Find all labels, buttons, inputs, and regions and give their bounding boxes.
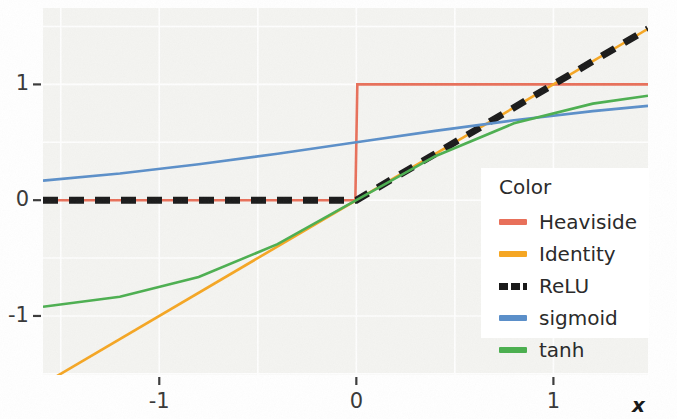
legend-item-label: ReLU [539,276,589,296]
y-tick-label: -1 [0,303,29,327]
legend-title: Color [499,175,551,199]
x-tick-label: 1 [533,389,573,413]
x-axis-title: x [632,393,645,417]
legend-item[interactable]: Identity [499,238,637,270]
activation-functions-chart: 1 0 -1 -1 0 1 x Color HeavisideIdentityR… [0,0,677,419]
legend-item[interactable]: sigmoid [499,302,637,334]
x-tick-label: -1 [139,389,179,413]
legend-swatch-sigmoid [499,315,527,321]
legend-swatch-tanh [499,347,527,353]
x-tick-label: 0 [336,389,376,413]
y-tick-label: 0 [0,187,29,211]
legend-item[interactable]: ReLU [499,270,637,302]
y-tick-label: 1 [0,71,29,95]
legend-item-label: Heaviside [539,212,637,232]
legend-swatch-heaviside [499,219,527,225]
legend-item-label: sigmoid [539,308,618,328]
legend: Color HeavisideIdentityReLUsigmoidtanh [481,168,649,338]
legend-swatch-identity [499,251,527,257]
legend-item-label: Identity [539,244,616,264]
legend-item-label: tanh [539,340,584,360]
legend-swatch-relu [499,283,527,290]
legend-item-list: HeavisideIdentityReLUsigmoidtanh [499,206,637,366]
legend-item[interactable]: Heaviside [499,206,637,238]
legend-item[interactable]: tanh [499,334,637,366]
